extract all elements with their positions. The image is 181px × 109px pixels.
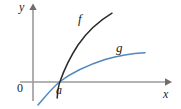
curve-f-label: f	[78, 12, 82, 25]
x-axis-label: x	[163, 88, 168, 100]
curve-g-label: g	[116, 41, 123, 54]
curve-g-path	[38, 53, 145, 105]
curve-f-path	[57, 13, 112, 98]
y-axis-label: y	[19, 1, 24, 13]
graph-canvas	[0, 0, 181, 109]
x-axis-arrowhead	[165, 78, 172, 86]
y-axis-arrowhead	[29, 4, 36, 11]
point-a-label: a	[56, 84, 62, 96]
origin-label: 0	[17, 82, 23, 94]
math-graph-figure: y x 0 a f g	[0, 0, 181, 109]
